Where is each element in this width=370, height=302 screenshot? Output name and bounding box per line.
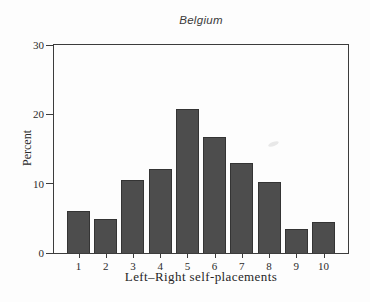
bar-10 — [312, 222, 335, 253]
chart-title: Belgium — [54, 14, 348, 26]
bar-7 — [230, 163, 253, 253]
y-axis-label: Percent — [20, 130, 35, 166]
y-tick-10 — [46, 183, 53, 184]
y-tick-label-10: 10 — [22, 177, 44, 191]
x-tick-4 — [160, 254, 161, 258]
plot-area: 123456789100102030 — [53, 44, 349, 254]
x-axis-label: Left–Right self-placements — [54, 269, 348, 285]
x-tick-2 — [106, 254, 107, 258]
bar-1 — [67, 211, 90, 253]
y-tick-label-30: 30 — [22, 38, 44, 52]
bar-5 — [176, 109, 199, 253]
bar-3 — [121, 180, 144, 253]
x-tick-5 — [187, 254, 188, 258]
x-tick-7 — [242, 254, 243, 258]
y-tick-label-0: 0 — [22, 246, 44, 260]
bar-2 — [94, 219, 117, 253]
x-tick-8 — [269, 254, 270, 258]
x-tick-3 — [133, 254, 134, 258]
chart: Belgium Percent 123456789100102030 Left–… — [0, 0, 370, 302]
x-tick-10 — [324, 254, 325, 258]
y-tick-0 — [46, 253, 53, 254]
bar-8 — [258, 182, 281, 253]
y-tick-30 — [46, 45, 53, 46]
bar-6 — [203, 137, 226, 253]
y-tick-label-20: 20 — [22, 107, 44, 121]
bar-9 — [285, 229, 308, 253]
x-tick-6 — [215, 254, 216, 258]
bar-4 — [149, 169, 172, 253]
x-tick-1 — [79, 254, 80, 258]
y-tick-20 — [46, 114, 53, 115]
x-tick-9 — [296, 254, 297, 258]
